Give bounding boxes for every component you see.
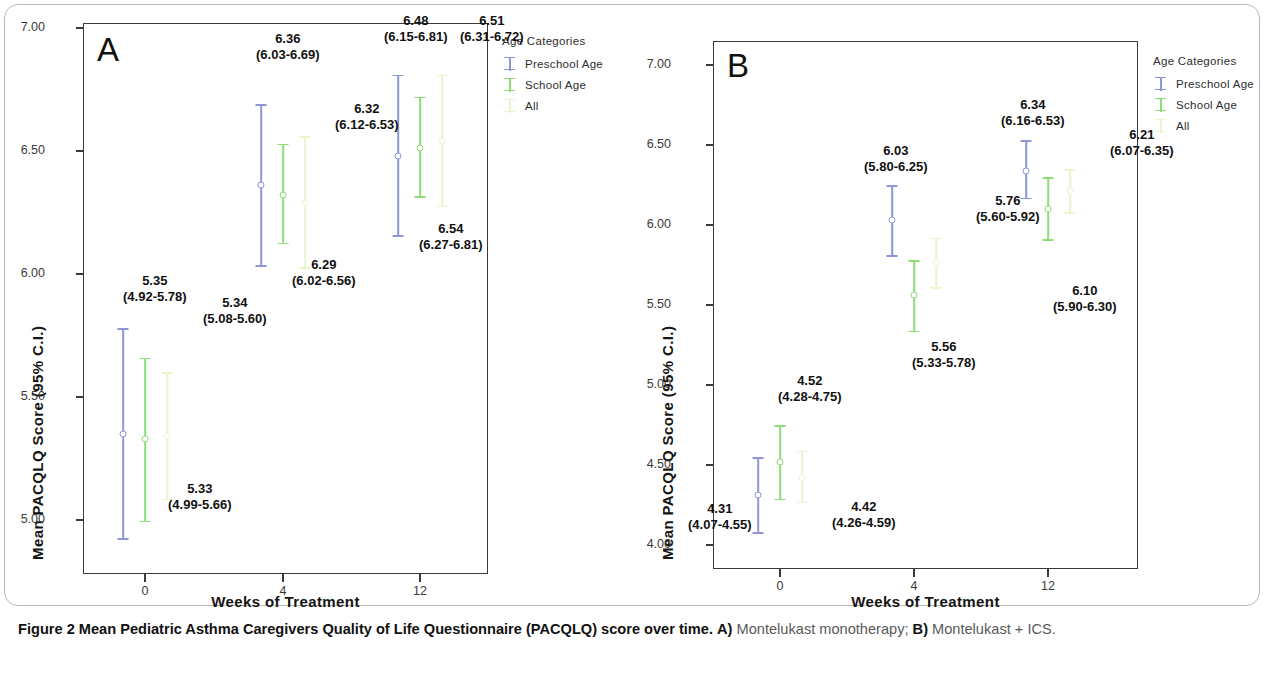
legend-item-preschool-age[interactable]: Preschool Age <box>1153 73 1254 94</box>
error-bar-preschool-age <box>1018 140 1034 199</box>
y-axis-tick-label: 5.50 <box>15 389 45 403</box>
legend-item-label: All <box>525 100 539 112</box>
y-axis-tick-mark <box>706 384 714 385</box>
legend-item-label: Preschool Age <box>525 58 603 70</box>
legend-errorbar-icon <box>502 98 518 114</box>
error-bar-cap-bottom <box>909 331 920 333</box>
data-point-marker <box>258 182 265 189</box>
panel-b-legend: Age Categories Preschool AgeSchool AgeAl… <box>1153 55 1254 136</box>
panel-b-y-axis-label: Mean PACQLQ Score (95% C.I.) <box>659 326 676 560</box>
y-axis-tick-mark <box>76 396 84 397</box>
y-axis-tick-mark <box>706 464 714 465</box>
legend-item-school-age[interactable]: School Age <box>502 74 603 95</box>
data-value-label: 6.36(6.03-6.69) <box>256 31 320 64</box>
y-axis-tick-label: 6.50 <box>637 137 671 151</box>
error-bar-all <box>1062 169 1078 214</box>
data-value-confidence-interval: (6.07-6.35) <box>1110 143 1174 159</box>
data-value-label: 6.48(6.15-6.81) <box>384 13 448 46</box>
x-axis-tick-mark <box>282 574 283 582</box>
data-value-mean: 6.51 <box>460 13 524 29</box>
data-value-label: 6.03(5.80-6.25) <box>864 143 928 176</box>
x-axis-tick-mark <box>913 569 914 577</box>
error-bar-cap-bottom <box>140 521 151 523</box>
y-axis-tick-label: 6.00 <box>15 266 45 280</box>
error-bar-preschool-age <box>390 75 406 237</box>
data-point-marker <box>142 435 149 442</box>
data-point-marker <box>120 430 127 437</box>
data-value-mean: 5.35 <box>123 273 187 289</box>
data-value-mean: 5.34 <box>203 295 267 311</box>
data-value-confidence-interval: (5.80-6.25) <box>864 159 928 175</box>
data-point-marker <box>395 152 402 159</box>
legend-item-preschool-age[interactable]: Preschool Age <box>502 53 603 74</box>
y-axis-tick-mark <box>706 544 714 545</box>
error-bar-preschool-age <box>253 104 269 266</box>
y-axis-tick-label: 4.50 <box>637 457 671 471</box>
data-value-confidence-interval: (4.28-4.75) <box>778 389 842 405</box>
legend-item-all[interactable]: All <box>502 95 603 116</box>
data-value-mean: 6.32 <box>335 101 399 117</box>
y-axis-tick-label: 5.50 <box>637 297 671 311</box>
data-value-mean: 6.36 <box>256 31 320 47</box>
legend-item-label: School Age <box>525 79 586 91</box>
data-value-mean: 6.29 <box>292 257 356 273</box>
data-point-marker <box>302 199 309 206</box>
error-bar-cap-bottom <box>775 499 786 501</box>
data-value-mean: 6.34 <box>1001 97 1065 113</box>
y-axis-tick-mark <box>76 150 84 151</box>
data-value-confidence-interval: (5.33-5.78) <box>912 355 976 371</box>
legend-item-label: Preschool Age <box>1176 78 1254 90</box>
y-axis-tick-mark <box>76 27 84 28</box>
error-bar-all <box>928 238 944 289</box>
data-value-label: 6.21(6.07-6.35) <box>1110 127 1174 160</box>
data-point-marker <box>280 192 287 199</box>
figure-frame: Mean PACQLQ Score (95% C.I.) Weeks of Tr… <box>4 4 1260 606</box>
error-bar-cap-bottom <box>415 196 426 198</box>
y-axis-tick-mark <box>76 519 84 520</box>
error-bar-school-age <box>137 358 153 523</box>
error-bar-preschool-age <box>884 185 900 257</box>
y-axis-tick-label: 7.00 <box>637 57 671 71</box>
error-bar-cap-bottom <box>753 532 764 534</box>
data-value-mean: 6.48 <box>384 13 448 29</box>
panel-a-letter: A <box>97 31 119 69</box>
error-bar-preschool-age <box>750 457 766 534</box>
x-axis-tick-mark <box>1047 569 1048 577</box>
caption-b-marker: B) <box>913 621 928 637</box>
x-axis-tick-label: 4 <box>892 579 936 593</box>
data-value-confidence-interval: (6.12-6.53) <box>335 117 399 133</box>
y-axis-tick-mark <box>706 64 714 65</box>
panel-b-x-axis-label: Weeks of Treatment <box>713 593 1138 610</box>
panel-a: Mean PACQLQ Score (95% C.I.) Weeks of Tr… <box>5 5 635 605</box>
data-point-marker <box>417 145 424 152</box>
error-bar-school-age <box>412 97 428 198</box>
error-bar-school-age <box>772 425 788 500</box>
legend-item-label: School Age <box>1176 99 1237 111</box>
error-bar-all <box>434 75 450 208</box>
legend-item-label: All <box>1176 120 1190 132</box>
error-bar-preschool-age <box>115 328 131 540</box>
y-axis-tick-label: 5.00 <box>637 377 671 391</box>
error-bar-cap-bottom <box>437 206 448 208</box>
error-bar-all <box>297 136 313 269</box>
error-bar-school-age <box>906 260 922 332</box>
data-value-confidence-interval: (4.99-5.66) <box>168 497 232 513</box>
data-value-confidence-interval: (6.15-6.81) <box>384 29 448 45</box>
legend-errorbar-icon <box>1153 76 1169 92</box>
error-bar-cap-bottom <box>278 243 289 245</box>
data-point-marker <box>755 492 762 499</box>
data-value-confidence-interval: (5.08-5.60) <box>203 311 267 327</box>
data-value-label: 5.56(5.33-5.78) <box>912 339 976 372</box>
panel-b-letter: B <box>727 47 749 85</box>
data-value-label: 5.35(4.92-5.78) <box>123 273 187 306</box>
data-value-label: 6.34(6.16-6.53) <box>1001 97 1065 130</box>
data-point-marker <box>439 138 446 145</box>
legend-item-school-age[interactable]: School Age <box>1153 94 1254 115</box>
data-point-marker <box>799 474 806 481</box>
x-axis-tick-label: 12 <box>1026 579 1070 593</box>
legend-errorbar-icon <box>502 77 518 93</box>
data-value-mean: 6.54 <box>419 221 483 237</box>
x-axis-tick-label: 0 <box>758 579 802 593</box>
y-axis-tick-label: 6.00 <box>637 217 671 231</box>
y-axis-tick-mark <box>706 304 714 305</box>
